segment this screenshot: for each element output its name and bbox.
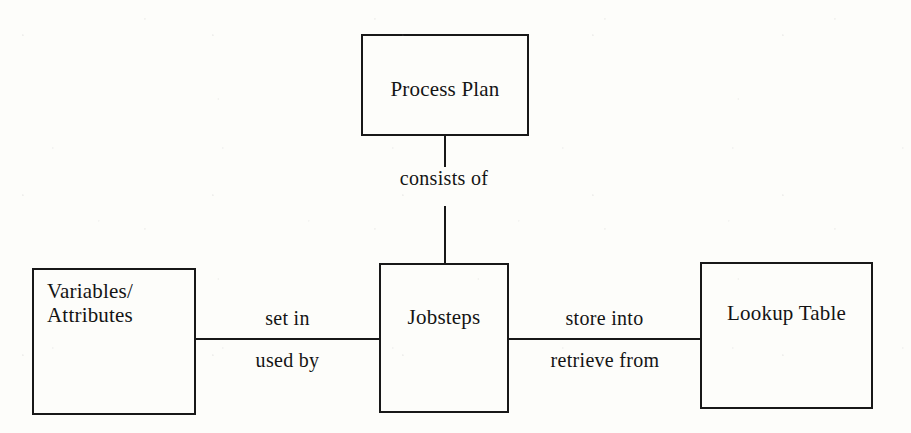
node-process-plan-label: Process Plan bbox=[363, 78, 527, 102]
node-lookup-table-label: Lookup Table bbox=[702, 302, 871, 326]
edge-jobsteps-lookup-table-line bbox=[508, 338, 701, 340]
edge-label-consists-of: consists of bbox=[381, 168, 507, 188]
edge-variables-jobsteps-line bbox=[195, 338, 380, 340]
node-variables-attributes[interactable]: Variables/ Attributes bbox=[32, 268, 196, 415]
node-jobsteps[interactable]: Jobsteps bbox=[379, 263, 509, 413]
node-variables-attributes-label: Variables/ Attributes bbox=[34, 280, 194, 327]
edge-label-used-by: used by bbox=[215, 350, 360, 370]
node-jobsteps-label: Jobsteps bbox=[381, 306, 507, 330]
edge-process-plan-jobsteps-segment-lower bbox=[444, 206, 446, 264]
diagram-canvas: Process Plan Variables/ Attributes Jobst… bbox=[0, 0, 911, 433]
node-process-plan[interactable]: Process Plan bbox=[361, 34, 529, 136]
edge-label-set-in: set in bbox=[215, 308, 360, 328]
edge-process-plan-jobsteps-segment-upper bbox=[444, 135, 446, 167]
edge-label-store-into: store into bbox=[527, 308, 682, 328]
node-lookup-table[interactable]: Lookup Table bbox=[700, 262, 873, 409]
edge-label-retrieve-from: retrieve from bbox=[522, 350, 688, 370]
